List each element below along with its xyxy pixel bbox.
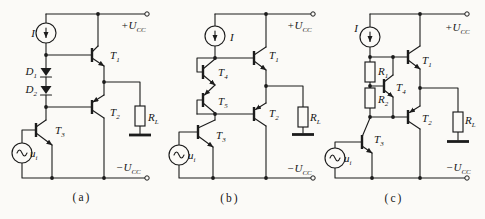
label-neg-supply: −UCC xyxy=(446,161,471,176)
transistor-t5 xyxy=(203,85,215,113)
diode-d1 xyxy=(41,68,52,77)
figure-caption-a: (a) xyxy=(73,191,92,204)
label-load: RL xyxy=(309,111,321,126)
label-r2: R2 xyxy=(377,93,389,108)
label-pos-supply: +UCC xyxy=(287,19,312,34)
label-t5: T5 xyxy=(218,95,228,110)
label-load: RL xyxy=(464,114,476,129)
transistor-t1 xyxy=(408,46,420,69)
terminal-positive xyxy=(311,12,315,16)
label-t2: T2 xyxy=(269,107,279,122)
label-input: ui xyxy=(188,149,196,164)
label-bias-current: I xyxy=(353,22,359,34)
transistor-t3 xyxy=(362,135,372,153)
transistor-t4 xyxy=(203,59,215,85)
terminal-positive xyxy=(145,12,149,16)
circuit-b: I +UCC T1 T4 T5 T2 T3 RL ui −UCC (b) xyxy=(169,12,321,205)
transistor-t1 xyxy=(92,46,104,66)
label-t1: T1 xyxy=(422,54,432,69)
current-source xyxy=(360,27,380,47)
transistor-t1 xyxy=(254,47,266,70)
figure-page: I +UCC D1 D2 T1 T2 T3 RL ui −UCC (a) xyxy=(0,0,485,219)
transistor-t2 xyxy=(254,103,266,126)
current-source xyxy=(205,26,225,46)
transistor-t3 xyxy=(36,120,52,145)
terminal-positive xyxy=(465,12,469,16)
diode-d2 xyxy=(41,86,52,95)
wires xyxy=(335,14,467,178)
label-d1: D1 xyxy=(25,65,37,80)
label-t4: T4 xyxy=(396,81,406,96)
label-r1: R1 xyxy=(377,65,388,80)
current-source xyxy=(36,23,56,43)
label-t2: T2 xyxy=(422,112,432,127)
input-source xyxy=(169,145,189,165)
label-pos-supply: +UCC xyxy=(445,21,470,36)
wires xyxy=(179,14,313,178)
label-t2: T2 xyxy=(110,106,120,121)
label-t3: T3 xyxy=(216,129,226,144)
label-pos-supply: +UCC xyxy=(121,19,146,34)
terminal-negative xyxy=(465,176,469,180)
schematic-svg: I +UCC D1 D2 T1 T2 T3 RL ui −UCC (a) xyxy=(0,0,485,219)
label-t1: T1 xyxy=(110,49,120,64)
label-t3: T3 xyxy=(55,124,65,139)
input-source xyxy=(12,143,32,163)
label-input: ui xyxy=(30,147,38,162)
label-neg-supply: −UCC xyxy=(287,162,312,177)
input-source xyxy=(325,148,345,168)
label-bias-current: I xyxy=(229,31,235,43)
circuit-a: I +UCC D1 D2 T1 T2 T3 RL ui −UCC (a) xyxy=(12,12,159,204)
figure-caption-c: (c) xyxy=(385,192,404,205)
circuit-c: I +UCC R1 R2 T4 T1 T2 T3 RL ui −UCC (c) xyxy=(325,12,476,205)
figure-caption-b: (b) xyxy=(220,192,239,205)
label-load: RL xyxy=(147,111,159,126)
label-input: ui xyxy=(344,152,352,167)
label-d2: D2 xyxy=(25,83,38,98)
label-neg-supply: −UCC xyxy=(116,161,141,176)
label-t3: T3 xyxy=(374,133,384,148)
resistor-r1 xyxy=(365,62,375,82)
transistor-t2 xyxy=(92,95,104,118)
resistor-r2 xyxy=(365,88,375,108)
transistor-t3 xyxy=(198,120,215,147)
label-t1: T1 xyxy=(269,49,279,64)
terminal-negative xyxy=(145,176,149,180)
transistor-t2 xyxy=(408,106,420,129)
label-t4: T4 xyxy=(218,66,228,81)
